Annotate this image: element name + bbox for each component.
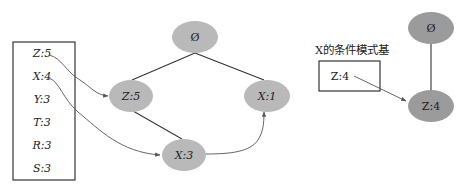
edge-root-x1 xyxy=(195,53,264,80)
fp-tree-root: Ø xyxy=(172,21,218,53)
header-item-t: T:3 xyxy=(33,116,51,129)
header-item-z: Z:5 xyxy=(32,47,51,60)
header-item-r: R:3 xyxy=(32,139,52,152)
svg-text:X:1: X:1 xyxy=(257,90,277,103)
edge-z5-x3 xyxy=(133,111,182,139)
conditional-title: X的条件模式基 xyxy=(315,43,390,57)
conditional-tree-root: Ø xyxy=(408,12,454,44)
header-item-s: S:3 xyxy=(33,162,51,175)
conditional-tree-node-z4: Z:4 xyxy=(408,90,454,122)
svg-text:X:3: X:3 xyxy=(174,149,194,162)
pattern-base-box xyxy=(319,61,380,91)
edge-root-z5 xyxy=(132,53,195,80)
conditional-pattern-base: X的条件模式基 Z:4 xyxy=(315,43,406,101)
fp-tree-diagram: Z:5 X:4 Y:3 T:3 R:3 S:3 Ø Z:5 X:1 X:3 X的… xyxy=(0,0,462,189)
svg-text:Ø: Ø xyxy=(190,31,199,44)
svg-text:Z:5: Z:5 xyxy=(121,90,140,103)
header-item-x: X:4 xyxy=(32,70,52,83)
pattern-base-item: Z:4 xyxy=(331,70,349,83)
fp-tree-node-x1: X:1 xyxy=(244,80,290,112)
link-x3-to-x1 xyxy=(206,112,264,154)
link-z-header-to-z5 xyxy=(49,55,108,96)
svg-text:Z:4: Z:4 xyxy=(422,100,440,113)
fp-tree-node-x3: X:3 xyxy=(162,139,206,171)
fp-tree-node-z5: Z:5 xyxy=(109,80,153,112)
conditional-tree: Ø Z:4 xyxy=(408,12,454,122)
header-table: Z:5 X:4 Y:3 T:3 R:3 S:3 xyxy=(13,42,75,180)
header-table-box xyxy=(13,42,75,180)
header-item-y: Y:3 xyxy=(34,93,51,106)
svg-text:Ø: Ø xyxy=(426,22,435,35)
